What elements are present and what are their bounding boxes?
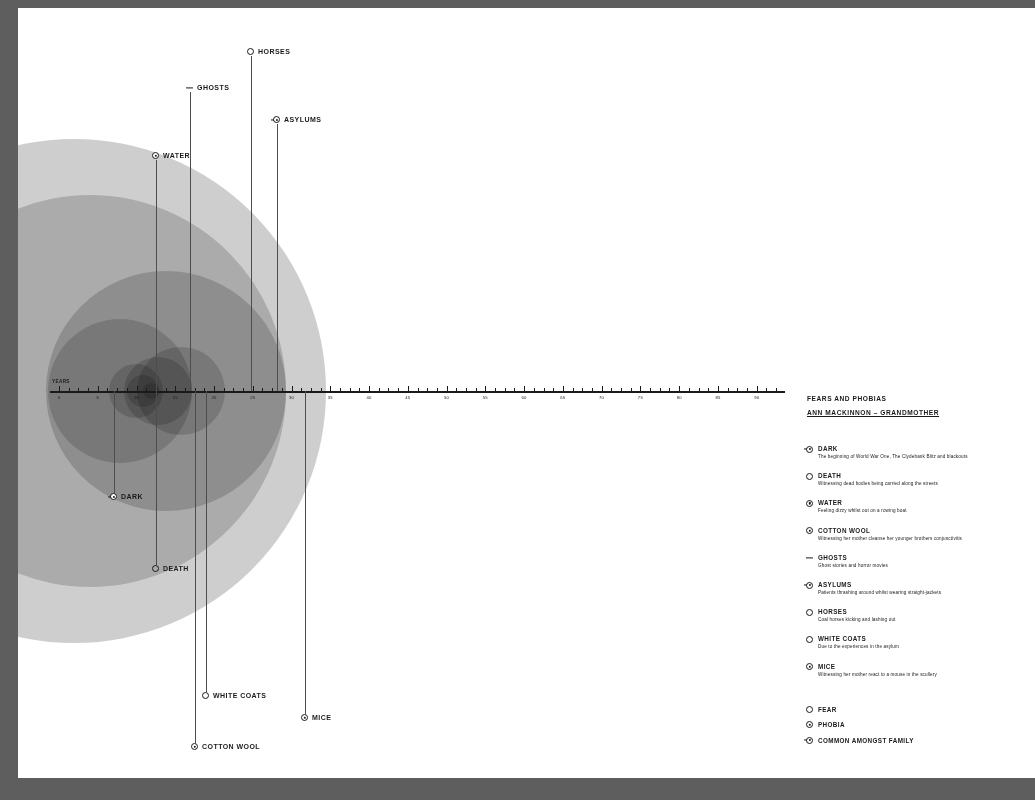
axis-tick [224,388,225,391]
axis-tick [146,388,147,391]
legend-key-label: FEAR [818,706,837,713]
callout-dark[interactable]: DARK [110,493,143,500]
axis-tick [505,388,506,391]
axis-tick [534,388,535,391]
axis-tick [669,388,670,391]
legend-panel: FEARS AND PHOBIAS ANN MACKINNON – GRANDM… [807,395,939,416]
axis-tick [418,388,419,391]
axis-tick [650,388,651,391]
legend-item-horses[interactable]: HORSESCoal horses kicking and lashing ou… [806,608,896,623]
legend-item-description: Ghost stories and horror movies [818,562,888,569]
legend-key-common-amongst-family[interactable]: COMMON AMONGST FAMILY [806,737,914,744]
callout-death[interactable]: DEATH [152,565,189,572]
legend-item-asylums[interactable]: ASYLUMSPatients thrashing around whilst … [806,581,941,596]
callout-label: DEATH [163,565,189,572]
fear-icon [806,609,813,616]
axis-tick [689,388,690,391]
axis-tick [59,386,60,391]
fear-icon [806,636,813,643]
legend-item-name: GHOSTS [818,554,888,561]
axis-tick [679,386,680,391]
axis-tick [127,388,128,391]
callout-label: WHITE COATS [213,692,266,699]
axis-tick [398,388,399,391]
axis-tick [88,388,89,391]
legend-key-fear[interactable]: FEAR [806,706,837,713]
legend-item-cotton-wool[interactable]: COTTON WOOLWitnessing her mother cleanse… [806,527,962,542]
callout-cotton-wool[interactable]: COTTON WOOL [191,743,260,750]
axis-tick [602,386,603,391]
legend-item-name: MICE [818,663,937,670]
axis-tick [253,386,254,391]
axis-tick-label: 20 [212,395,217,400]
axis-tick [592,388,593,391]
fear-icon [247,48,254,55]
family-icon [806,446,813,453]
phobia-icon [806,663,813,670]
axis-tick [708,388,709,391]
legend-item-water[interactable]: WATERFeeling dizzy whilst out on a rowin… [806,499,907,514]
callout-leader-line [277,124,278,391]
axis-tick-label: 75 [638,395,643,400]
axis-tick [563,386,564,391]
legend-item-mice[interactable]: MICEWitnessing her mother react to a mou… [806,663,937,678]
axis-tick-label: 30 [289,395,294,400]
axis-tick [243,388,244,391]
axis-tick [544,388,545,391]
axis-tick [98,386,99,391]
axis-tick [447,386,448,391]
axis-tick [427,388,428,391]
phobia-icon [806,500,813,507]
legend-item-name: HORSES [818,608,896,615]
axis-tick [137,386,138,391]
axis-tick-label: 45 [405,395,410,400]
callout-asylums[interactable]: ASYLUMS [273,116,321,123]
legend-item-white-coats[interactable]: WHITE COATSDue to the experiences in the… [806,635,899,650]
axis-tick [660,388,661,391]
callout-leader-line [156,160,157,391]
callout-leader-line [190,92,191,391]
legend-item-death[interactable]: DEATHWitnessing dead bodies being carrie… [806,472,938,487]
axis-tick [611,388,612,391]
axis-tick [379,388,380,391]
legend-item-name: DEATH [818,472,938,479]
axis-tick-label: 65 [560,395,565,400]
callout-ghosts[interactable]: GHOSTS [186,84,229,91]
callout-label: ASYLUMS [284,116,321,123]
axis-tick [718,386,719,391]
axis-tick [582,388,583,391]
callout-white-coats[interactable]: WHITE COATS [202,692,266,699]
axis-tick [466,388,467,391]
axis-tick [757,386,758,391]
axis-tick [766,388,767,391]
phobia-icon [152,152,159,159]
fear-icon [202,692,209,699]
axis-line [50,391,785,393]
legend-key-label: PHOBIA [818,721,845,728]
legend-key-phobia[interactable]: PHOBIA [806,721,845,728]
callout-mice[interactable]: MICE [301,714,331,721]
axis-tick [621,388,622,391]
axis-tick [485,386,486,391]
axis-tick [117,388,118,391]
legend-item-name: ASYLUMS [818,581,941,588]
axis-tick [737,388,738,391]
poster-page: YEARS 0510152025303540455055606570758085… [18,8,1035,778]
axis-tick [340,388,341,391]
chart-stage: YEARS 0510152025303540455055606570758085… [18,8,1035,778]
legend-subtitle: ANN MACKINNON – GRANDMOTHER [807,409,939,416]
legend-item-ghosts[interactable]: GHOSTSGhost stories and horror movies [806,554,888,569]
family-icon [273,116,280,123]
callout-horses[interactable]: HORSES [247,48,290,55]
legend-item-description: Due to the experiences in the asylum [818,643,899,650]
legend-item-dark[interactable]: DARKThe beginning of World War One, The … [806,445,968,460]
axis-tick [573,388,574,391]
callout-water[interactable]: WATER [152,152,190,159]
axis-title: YEARS [52,379,70,384]
phobia-icon [806,527,813,534]
callout-leader-line [206,391,207,692]
axis-tick-label: 40 [367,395,372,400]
legend-item-name: DARK [818,445,968,452]
axis-tick [321,388,322,391]
axis-tick [69,388,70,391]
